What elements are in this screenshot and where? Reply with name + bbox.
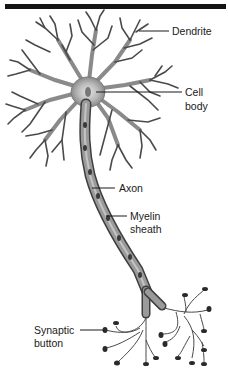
- axon: [83, 104, 162, 314]
- label-axon: Axon: [119, 182, 143, 195]
- label-dendrite: Dendrite: [172, 25, 212, 38]
- label-cell-body-line2: body: [185, 100, 208, 113]
- label-synaptic-line2: button: [34, 337, 63, 350]
- label-myelin-line2: sheath: [130, 223, 162, 236]
- label-synaptic-line1: Synaptic: [34, 324, 74, 337]
- label-myelin-line1: Myelin: [130, 210, 160, 223]
- neuron-diagram: Dendrite Cell body Axon Myelin sheath Sy…: [0, 0, 228, 384]
- label-cell-body-line1: Cell: [185, 86, 203, 99]
- nucleus: [85, 87, 91, 97]
